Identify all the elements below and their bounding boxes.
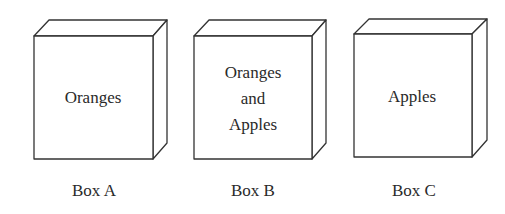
box-c-content: Apples xyxy=(388,87,436,106)
box-c-label: Box C xyxy=(392,181,436,200)
box-b-top-face xyxy=(194,20,326,36)
box-b-label: Box B xyxy=(231,181,275,200)
box-c: Apples Box C xyxy=(354,19,487,200)
box-b: Oranges and Apples Box B xyxy=(194,20,326,200)
box-a-top-face xyxy=(34,20,167,36)
boxes-diagram: Oranges Box A Oranges and Apples Box B A… xyxy=(0,0,505,214)
box-c-top-face xyxy=(354,19,487,34)
box-a-content: Oranges xyxy=(65,88,122,107)
box-a-side-face xyxy=(153,20,167,159)
box-a-label: Box A xyxy=(72,181,117,200)
box-c-side-face xyxy=(472,19,487,157)
box-b-content-line-1: Oranges xyxy=(225,63,282,82)
box-a: Oranges Box A xyxy=(34,20,167,200)
box-b-content-line-2: and xyxy=(241,89,266,108)
box-b-side-face xyxy=(312,20,326,159)
box-b-content-line-3: Apples xyxy=(229,115,277,134)
